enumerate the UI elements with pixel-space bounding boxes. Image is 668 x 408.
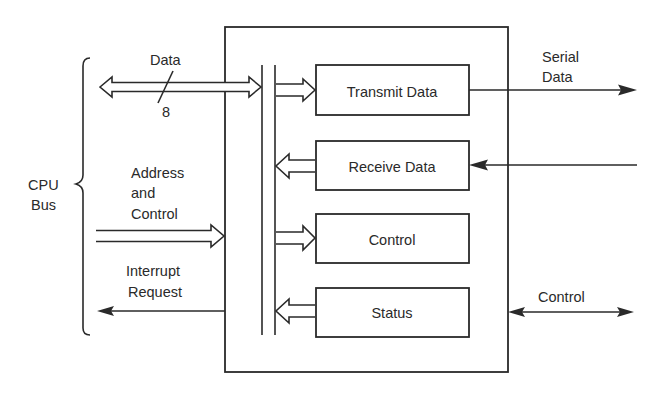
interrupt-request-arrow <box>97 306 225 316</box>
transmit-data-label: Transmit Data <box>347 84 438 100</box>
request-label: Request <box>128 284 182 300</box>
data-bus-width-label: 8 <box>162 104 170 120</box>
control-line-label: Control <box>538 289 585 305</box>
control-line-arrow <box>508 307 634 317</box>
serial-data-label: Data <box>542 69 574 85</box>
address-label: Address <box>131 165 184 181</box>
data-bus-label: Data <box>150 52 182 68</box>
address-control-arrow <box>96 225 224 247</box>
interrupt-label: Interrupt <box>126 263 180 279</box>
status-register-label: Status <box>371 305 412 321</box>
register-control: Control <box>316 214 469 263</box>
control-label: Control <box>131 206 178 222</box>
cpu-bus-label-line1: CPU <box>28 177 59 193</box>
serial-interface-diagram: CPU Bus Data 8 Address and Control Inter… <box>0 0 668 408</box>
register-status: Status <box>316 288 469 337</box>
cpu-bus-brace <box>76 58 90 335</box>
cpu-bus-label-line2: Bus <box>31 197 56 213</box>
register-receive-data: Receive Data <box>316 141 469 190</box>
control-register-label: Control <box>369 232 416 248</box>
receive-data-label: Receive Data <box>348 159 436 175</box>
register-transmit-data: Transmit Data <box>316 65 469 115</box>
serial-label: Serial <box>542 49 579 65</box>
and-label: and <box>131 185 155 201</box>
